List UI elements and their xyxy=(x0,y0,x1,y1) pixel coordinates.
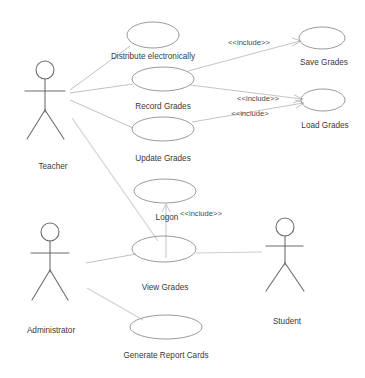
use-case-label-load-grades: Load Grades xyxy=(301,122,348,130)
association-teacher-update xyxy=(70,100,133,128)
use-case-logon[interactable] xyxy=(134,179,196,203)
stereotype-label-update-to-load: <<include> xyxy=(231,110,268,118)
use-case-label-update-grades: Update Grades xyxy=(135,155,191,163)
stereotype-label-record-to-save: <<include>> xyxy=(228,39,270,47)
association-lines xyxy=(70,46,262,320)
use-case-save-grades[interactable] xyxy=(299,27,345,49)
association-student-viewgrades xyxy=(196,252,262,253)
use-case-distribute-electronically[interactable] xyxy=(127,22,179,48)
actor-teacher[interactable] xyxy=(25,61,65,139)
actor-label-student: Student xyxy=(273,318,301,326)
actor-label-administrator: Administrator xyxy=(27,327,75,335)
actor-teacher-head-icon xyxy=(36,61,54,79)
use-case-view-grades[interactable] xyxy=(132,236,196,262)
actor-student-leg-left xyxy=(266,263,285,291)
association-teacher-viewgrades xyxy=(72,118,158,241)
association-administrator-generate xyxy=(87,288,143,320)
actor-teacher-leg-right xyxy=(45,110,64,139)
actor-administrator[interactable] xyxy=(31,223,69,300)
include-arrows xyxy=(162,38,304,258)
actor-label-teacher: Teacher xyxy=(38,163,67,171)
actor-administrator-leg-left xyxy=(32,270,50,300)
use-case-label-logon: Logon xyxy=(156,214,179,222)
use-case-diagram: Distribute electronically Record Grades … xyxy=(0,0,365,378)
use-case-generate-report-cards[interactable] xyxy=(130,315,202,339)
association-teacher-record xyxy=(70,84,133,93)
actor-teacher-leg-left xyxy=(27,110,45,139)
use-case-record-grades[interactable] xyxy=(132,67,194,91)
use-case-label-distribute-electronically: Distribute electronically xyxy=(111,53,195,61)
actor-student-head-icon xyxy=(276,218,294,236)
use-case-label-generate-report-cards: Generate Report Cards xyxy=(123,352,208,360)
stereotype-label-record-to-load: <<include>> xyxy=(237,95,279,103)
stereotype-label-viewgrades-to-logon: <<include>> xyxy=(180,210,222,218)
actor-student[interactable] xyxy=(266,218,304,291)
actor-administrator-leg-right xyxy=(50,270,68,300)
actor-student-leg-right xyxy=(285,263,304,291)
use-case-label-view-grades: View Grades xyxy=(142,284,189,292)
actor-administrator-head-icon xyxy=(41,223,59,241)
association-administrator-viewgrades xyxy=(86,254,136,263)
use-case-load-grades[interactable] xyxy=(301,89,345,111)
use-case-label-save-grades: Save Grades xyxy=(300,59,348,67)
use-case-label-record-grades: Record Grades xyxy=(135,103,191,111)
use-case-update-grades[interactable] xyxy=(132,117,194,141)
